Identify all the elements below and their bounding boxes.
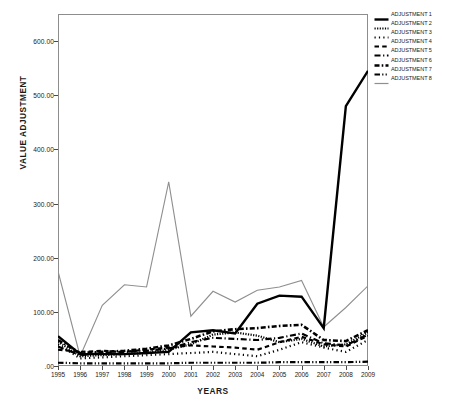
legend-item-label: ADJUSTMENT 2 (391, 19, 432, 28)
x-tick-label: 2008 (339, 371, 353, 378)
legend-item-label: ADJUSTMENT 4 (391, 37, 432, 46)
y-tick-mark (54, 312, 58, 313)
y-tick-mark (54, 95, 58, 96)
series-line-7 (58, 362, 368, 364)
legend-item-1[interactable]: ADJUSTMENT 1 (374, 10, 451, 19)
y-tick-label: 500.00 (33, 92, 54, 99)
x-tick-label: 2001 (184, 371, 198, 378)
x-tick-mark (368, 366, 369, 370)
x-tick-label: 2006 (295, 371, 309, 378)
series-line-1 (58, 71, 368, 354)
chart-container: .00100.00200.00300.00400.00500.00600.00 … (0, 0, 451, 411)
legend-item-3[interactable]: ADJUSTMENT 3 (374, 28, 451, 37)
legend-item-label: ADJUSTMENT 7 (391, 65, 432, 74)
x-tick-label: 2000 (162, 371, 176, 378)
legend-swatch-icon (374, 10, 389, 19)
legend-swatch-icon (374, 28, 389, 37)
legend-item-2[interactable]: ADJUSTMENT 2 (374, 19, 451, 28)
legend-item-label: ADJUSTMENT 8 (391, 74, 432, 83)
y-axis-title: VALUE ADJUSTMENT (19, 48, 28, 198)
legend: ADJUSTMENT 1ADJUSTMENT 2ADJUSTMENT 3ADJU… (374, 10, 451, 83)
x-tick-label: 2009 (361, 371, 375, 378)
y-tick-mark (54, 258, 58, 259)
x-tick-mark (257, 366, 258, 370)
x-tick-mark (80, 366, 81, 370)
series-lines-layer (58, 14, 368, 366)
x-tick-mark (302, 366, 303, 370)
y-tick-label: 400.00 (33, 146, 54, 153)
y-tick-mark (54, 149, 58, 150)
y-tick-label: 100.00 (33, 308, 54, 315)
legend-swatch-icon (374, 37, 389, 46)
x-tick-mark (169, 366, 170, 370)
x-tick-label: 2002 (206, 371, 220, 378)
x-tick-mark (58, 366, 59, 370)
y-tick-mark (54, 41, 58, 42)
y-tick-label: 300.00 (33, 200, 54, 207)
x-tick-mark (279, 366, 280, 370)
x-tick-mark (191, 366, 192, 370)
x-tick-mark (102, 366, 103, 370)
y-tick-mark (54, 204, 58, 205)
x-tick-mark (324, 366, 325, 370)
legend-item-5[interactable]: ADJUSTMENT 5 (374, 46, 451, 55)
y-tick-label: .00 (45, 363, 54, 370)
x-tick-label: 1999 (140, 371, 154, 378)
x-tick-label: 1996 (73, 371, 87, 378)
legend-swatch-icon (374, 56, 389, 65)
x-tick-label: 1997 (95, 371, 109, 378)
legend-item-label: ADJUSTMENT 3 (391, 28, 432, 37)
y-tick-label: 600.00 (33, 38, 54, 45)
legend-swatch-icon (374, 46, 389, 55)
x-tick-mark (235, 366, 236, 370)
x-tick-label: 1995 (51, 371, 65, 378)
x-tick-label: 2004 (250, 371, 264, 378)
y-tick-label: 200.00 (33, 254, 54, 261)
legend-item-6[interactable]: ADJUSTMENT 6 (374, 55, 451, 64)
x-tick-mark (124, 366, 125, 370)
legend-item-label: ADJUSTMENT 5 (391, 46, 432, 55)
legend-item-7[interactable]: ADJUSTMENT 7 (374, 65, 451, 74)
x-axis-title: YEARS (58, 386, 368, 396)
x-tick-mark (346, 366, 347, 370)
x-tick-mark (213, 366, 214, 370)
x-tick-label: 2007 (317, 371, 331, 378)
legend-item-8[interactable]: ADJUSTMENT 8 (374, 74, 451, 83)
legend-item-label: ADJUSTMENT 1 (391, 10, 432, 19)
legend-swatch-icon (374, 65, 389, 74)
legend-item-4[interactable]: ADJUSTMENT 4 (374, 37, 451, 46)
legend-item-label: ADJUSTMENT 6 (391, 56, 432, 65)
legend-swatch-icon (374, 74, 389, 83)
legend-swatch-icon (374, 19, 389, 28)
x-tick-label: 1998 (118, 371, 132, 378)
x-tick-mark (147, 366, 148, 370)
x-tick-label: 2003 (228, 371, 242, 378)
x-tick-label: 2005 (273, 371, 287, 378)
